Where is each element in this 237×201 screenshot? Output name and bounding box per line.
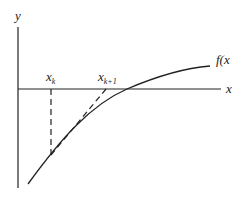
newton-method-diagram: y x f(x xk xk+1 — [0, 0, 237, 201]
x-axis-label: x — [226, 82, 232, 95]
function-label: f(x — [216, 53, 230, 66]
y-axis-label: y — [15, 9, 21, 22]
xk1-subscript: k+1 — [104, 77, 117, 86]
tangent-dashed-line — [51, 89, 106, 155]
xk1-label: xk+1 — [98, 70, 117, 86]
xk-subscript: k — [52, 77, 56, 86]
diagram-canvas — [0, 0, 237, 201]
xk-label: xk — [46, 70, 55, 86]
